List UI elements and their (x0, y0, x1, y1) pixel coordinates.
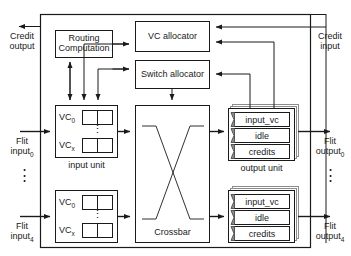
output-unit-1-row-label-input-vc: input_vc (235, 197, 289, 207)
flit-input-0-label: Flit input0 (2, 136, 42, 160)
output-unit-1-row-label-credits: credits (235, 229, 289, 239)
left-vertical-ellipsis: ⋮ (14, 170, 34, 180)
switch-allocator-label: Switch allocator (136, 69, 209, 79)
flit-output-4-label: Flit output4 (310, 221, 350, 245)
vc-allocator-label: VC allocator (136, 31, 209, 41)
right-vertical-ellipsis: ⋮ (320, 170, 340, 180)
input-unit-1-vc0-label: VC0 (59, 197, 83, 211)
credit-input-label: Credit input (311, 31, 349, 51)
input-unit-0-ellipsis: ⋮ (90, 124, 104, 134)
output-unit-0-caption: output unit (228, 163, 295, 173)
output-unit-0-row-label-credits: credits (235, 147, 289, 157)
crossbar-label: Crossbar (136, 227, 209, 237)
flit-input-4-label: Flit input4 (2, 221, 42, 245)
router-block-diagram: Routing Computation VC allocator Switch … (0, 0, 351, 256)
routing-computation-label: Routing Computation (56, 33, 112, 53)
input-unit-0-caption: input unit (55, 160, 118, 170)
flit-output-0-label: Flit output0 (310, 136, 350, 160)
output-unit-1-row-label-idle: idle (235, 213, 289, 223)
credit-output-label: Credit output (2, 31, 42, 51)
input-unit-0-vcx-label: VCx (59, 140, 83, 154)
output-unit-0-row-label-idle: idle (235, 131, 289, 141)
input-unit-1-vcx-label: VCx (59, 225, 83, 239)
output-unit-0-row-label-input-vc: input_vc (235, 115, 289, 125)
input-unit-0-vc0-label: VC0 (59, 112, 83, 126)
input-unit-1-ellipsis: ⋮ (90, 209, 104, 219)
